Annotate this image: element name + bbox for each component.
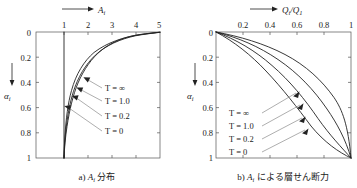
panel-a-ytick-06: 0.6 (20, 103, 31, 113)
panel-a-legend-item-1: T = 1.0 (105, 96, 130, 106)
panel-b-ytick-0: 0 (209, 28, 213, 38)
panel-b-legend-item-3: T = 0 (229, 147, 247, 157)
figure-svg: Ai 1 2 3 4 5 0 0.2 0.4 0.6 0.8 1 (0, 0, 357, 188)
panel-b-caption-label: b) (237, 172, 245, 182)
panel-a-xtick-3: 3 (110, 20, 114, 30)
panel-a-caption-tail: 分布 (95, 171, 115, 182)
figure-background (0, 0, 357, 188)
panel-b-caption: b) Ai による層せん断力 (237, 171, 328, 183)
panel-a-xlabel-sub: i (104, 9, 106, 16)
panel-a-ytick-1: 1 (27, 153, 31, 163)
panel-a-ytick-08: 0.8 (20, 128, 31, 138)
panel-a-caption: a) Ai 分布 (79, 171, 116, 183)
panel-a-legend-item-3: T = 0 (105, 126, 123, 136)
panel-a-ytick-02: 0.2 (20, 53, 31, 63)
panel-a-xtick-5: 5 (157, 20, 161, 30)
panel-b-xtick-08: 0.8 (319, 20, 330, 30)
panel-b-xlabel-sub2: 1 (299, 9, 302, 16)
panel-a-xtick-2: 2 (86, 20, 90, 30)
panel-b-xtick-02: 0.2 (238, 20, 249, 30)
figure-container: Ai 1 2 3 4 5 0 0.2 0.4 0.6 0.8 1 (0, 0, 357, 188)
panel-b-ytick-06: 0.6 (202, 103, 213, 113)
panel-b-xtick-04: 0.4 (265, 20, 276, 30)
panel-b-legend-item-0: T = ∞ (229, 108, 249, 118)
panel-a-legend-item-0: T = ∞ (105, 83, 125, 93)
panel-b-ytick-08: 0.8 (202, 128, 213, 138)
panel-b-legend-item-1: T = 1.0 (229, 121, 254, 131)
panel-b-ylabel-sub: i (192, 95, 194, 102)
panel-b-caption-tail: による層せん断力 (254, 171, 328, 182)
panel-b-ytick-1: 1 (209, 153, 213, 163)
panel-a-xtick-1: 1 (62, 20, 66, 30)
panel-b-ytick-04: 0.4 (202, 78, 213, 88)
panel-a-ytick-0: 0 (27, 28, 31, 38)
panel-a-caption-label: a) (79, 172, 86, 182)
panel-b-legend-item-2: T = 0.2 (229, 134, 254, 144)
panel-b-ytick-02: 0.2 (202, 53, 213, 63)
panel-a-ylabel-sub: i (9, 95, 11, 102)
panel-b-xtick-06: 0.6 (292, 20, 303, 30)
panel-a-legend-item-2: T = 0.2 (105, 111, 130, 121)
panel-b-xtick-1: 1 (349, 20, 353, 30)
panel-a-ytick-04: 0.4 (20, 78, 31, 88)
